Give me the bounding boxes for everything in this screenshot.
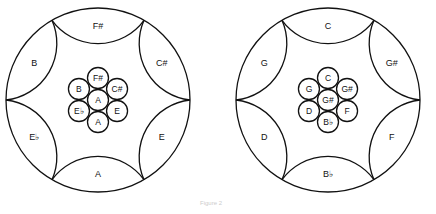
- center-note-label: G#: [322, 95, 334, 105]
- outer-note-label: D: [261, 132, 268, 142]
- outer-note-boundary: [369, 100, 420, 180]
- outer-note-label: G: [261, 58, 268, 68]
- figure-caption: Figure 2: [200, 200, 222, 206]
- inner-note-label: F#: [93, 73, 103, 83]
- inner-note-label: E: [114, 106, 120, 116]
- outer-note-label: B♭: [323, 169, 333, 179]
- inner-note-label: C#: [112, 84, 123, 94]
- inner-note-label: C: [325, 73, 331, 83]
- inner-note-label: E♭: [74, 106, 84, 116]
- inner-note-label: F: [344, 106, 349, 116]
- outer-note-label: F#: [93, 21, 104, 31]
- outer-note-label: A: [95, 169, 101, 179]
- outer-note-label: C#: [156, 58, 168, 68]
- outer-note-label: G#: [386, 58, 398, 68]
- right-pan: CG#FB♭DGCG#FB♭DGG#: [236, 8, 420, 192]
- inner-note-label: B♭: [323, 117, 333, 127]
- outer-note-label: B: [31, 58, 37, 68]
- left-pan: F#C#EAE♭BF#C#EAE♭BA: [6, 8, 190, 192]
- steelpan-diagrams: F#C#EAE♭BF#C#EAE♭BA CG#FB♭DGCG#FB♭DGG#: [0, 0, 436, 214]
- outer-note-label: E: [159, 132, 165, 142]
- inner-note-label: G#: [341, 84, 353, 94]
- inner-note-label: D: [306, 106, 312, 116]
- outer-note-label: C: [325, 21, 332, 31]
- inner-note-label: B: [76, 84, 82, 94]
- outer-note-label: E♭: [29, 132, 39, 142]
- inner-note-label: G: [306, 84, 313, 94]
- center-note-label: A: [95, 95, 101, 105]
- inner-note-label: A: [95, 117, 101, 127]
- outer-note-label: F: [389, 132, 395, 142]
